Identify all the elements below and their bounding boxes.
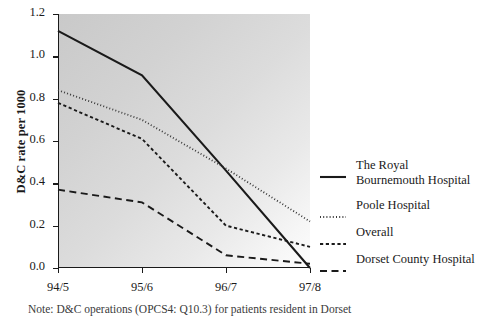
y-tick-label: 0.8	[29, 90, 45, 105]
x-tick-label: 94/5	[47, 280, 69, 295]
x-tick-label: 95/6	[131, 280, 153, 295]
y-axis-title: D&C rate per 1000	[14, 57, 29, 227]
y-tick-label: 0.4	[29, 174, 45, 189]
legend-item[interactable]: Poole Hospital	[320, 198, 480, 215]
legend-label: Poole Hospital	[356, 198, 480, 213]
y-tick-label: 0.0	[29, 259, 45, 274]
x-tick: 97/8	[310, 268, 311, 273]
series-line	[58, 31, 310, 268]
legend-swatch	[320, 232, 346, 235]
y-tick-label: 1.2	[29, 5, 45, 20]
chart-footnote: Note: D&C operations (OPCS4: Q10.3) for …	[28, 303, 478, 316]
y-tick-label: 0.2	[29, 217, 45, 232]
chart-legend: The Royal Bournemouth HospitalPoole Hosp…	[320, 158, 480, 279]
series-layer	[58, 14, 310, 268]
x-tick: 96/7	[226, 268, 227, 273]
y-tick-label: 1.0	[29, 47, 45, 62]
legend-item[interactable]: Dorset County Hospital	[320, 252, 480, 269]
series-line	[58, 90, 310, 221]
legend-item[interactable]: The Royal Bournemouth Hospital	[320, 158, 480, 188]
legend-swatch	[320, 205, 346, 208]
x-tick: 95/6	[142, 268, 143, 273]
legend-label: The Royal Bournemouth Hospital	[356, 158, 480, 188]
legend-label: Overall	[356, 225, 480, 240]
legend-swatch	[320, 165, 346, 168]
series-line	[58, 190, 310, 264]
legend-label: Dorset County Hospital	[356, 252, 480, 267]
x-tick-label: 97/8	[299, 280, 321, 295]
y-tick-label: 0.6	[29, 132, 45, 147]
legend-swatch	[320, 259, 346, 262]
plot-area: 0.00.20.40.60.81.01.2 94/595/696/797/8	[58, 14, 310, 268]
x-tick-label: 96/7	[215, 280, 237, 295]
x-tick: 94/5	[58, 268, 59, 273]
legend-item[interactable]: Overall	[320, 225, 480, 242]
